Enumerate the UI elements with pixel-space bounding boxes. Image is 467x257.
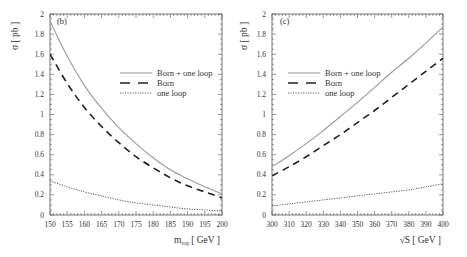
y-tick-label: 0.2 xyxy=(257,190,267,199)
series-one-loop xyxy=(272,184,443,206)
y-axis-label: σ [ pb ] xyxy=(239,22,249,50)
x-axis-label: mtop[ GeV ] xyxy=(174,235,220,246)
legend-label: one loop xyxy=(157,88,187,98)
y-tick-label: 0.6 xyxy=(257,150,267,159)
x-tick-label: 300 xyxy=(266,220,278,229)
x-tick-label: 165 xyxy=(96,220,108,229)
x-tick-label: 155 xyxy=(62,220,74,229)
x-tick-label: 150 xyxy=(44,220,56,229)
y-tick-label: 1.4 xyxy=(257,70,267,79)
x-tick-label: 400 xyxy=(437,220,449,229)
x-tick-label: 175 xyxy=(130,220,142,229)
plot-frame xyxy=(50,14,222,215)
figure: 15015516016517017518018519019520000.20.4… xyxy=(0,0,467,257)
chart-panel-c: 30031032033034035036037038039040000.20.4… xyxy=(239,10,449,246)
legend-label: Born xyxy=(325,78,343,88)
x-tick-label: 160 xyxy=(79,220,91,229)
x-tick-label: 380 xyxy=(403,220,415,229)
y-tick-label: 1.8 xyxy=(257,30,267,39)
panel-tag: (b) xyxy=(57,16,67,26)
y-tick-label: 1.4 xyxy=(35,70,45,79)
series-born-one-loop xyxy=(50,21,222,194)
x-tick-label: 185 xyxy=(165,220,177,229)
y-tick-label: 1.6 xyxy=(257,50,267,59)
y-tick-label: 0.6 xyxy=(35,150,45,159)
panel-tag: (c) xyxy=(280,16,290,26)
x-tick-label: 390 xyxy=(420,220,432,229)
x-tick-label: 180 xyxy=(148,220,160,229)
y-tick-label: 2 xyxy=(262,10,266,19)
y-tick-label: 0 xyxy=(40,211,44,220)
x-axis-label: √S[ GeV ] xyxy=(400,235,441,245)
x-tick-label: 170 xyxy=(113,220,125,229)
legend-label: Born + one loop xyxy=(157,68,213,78)
y-axis-label: σ [ pb ] xyxy=(10,22,20,50)
x-tick-label: 350 xyxy=(352,220,364,229)
x-tick-label: 330 xyxy=(318,220,330,229)
legend-label: one loop xyxy=(325,88,355,98)
y-tick-label: 1.2 xyxy=(257,90,267,99)
y-tick-label: 0.8 xyxy=(35,130,45,139)
x-tick-label: 360 xyxy=(369,220,381,229)
x-tick-label: 200 xyxy=(216,220,228,229)
chart-panel-b: 15015516016517017518018519019520000.20.4… xyxy=(10,10,228,247)
plot-frame xyxy=(272,14,443,215)
x-tick-label: 195 xyxy=(199,220,211,229)
y-tick-label: 1.2 xyxy=(35,90,45,99)
y-tick-label: 0.4 xyxy=(257,170,267,179)
chart-canvas: 15015516016517017518018519019520000.20.4… xyxy=(0,0,467,257)
y-tick-label: 0 xyxy=(262,211,266,220)
x-tick-label: 190 xyxy=(182,220,194,229)
y-tick-label: 1 xyxy=(262,110,266,119)
y-tick-label: 1 xyxy=(40,110,44,119)
x-tick-label: 370 xyxy=(386,220,398,229)
y-tick-label: 2 xyxy=(40,10,44,19)
legend-label: Born xyxy=(157,78,175,88)
series-born-one-loop xyxy=(272,27,443,167)
y-tick-label: 1.6 xyxy=(35,50,45,59)
y-tick-label: 0.8 xyxy=(257,130,267,139)
y-tick-label: 0.4 xyxy=(35,170,45,179)
y-tick-label: 1.8 xyxy=(35,30,45,39)
x-tick-label: 340 xyxy=(335,220,347,229)
x-tick-label: 320 xyxy=(301,220,313,229)
series-one-loop xyxy=(50,181,222,211)
x-tick-label: 310 xyxy=(283,220,295,229)
y-tick-label: 0.2 xyxy=(35,190,45,199)
legend-label: Born + one loop xyxy=(325,68,381,78)
